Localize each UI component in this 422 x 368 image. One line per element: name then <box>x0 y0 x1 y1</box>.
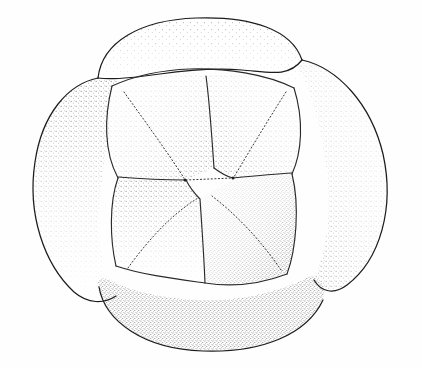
junction-left-center <box>184 179 187 182</box>
junction-right-center <box>232 177 235 180</box>
figure-root <box>0 0 422 368</box>
embryo-diagram <box>0 0 422 368</box>
